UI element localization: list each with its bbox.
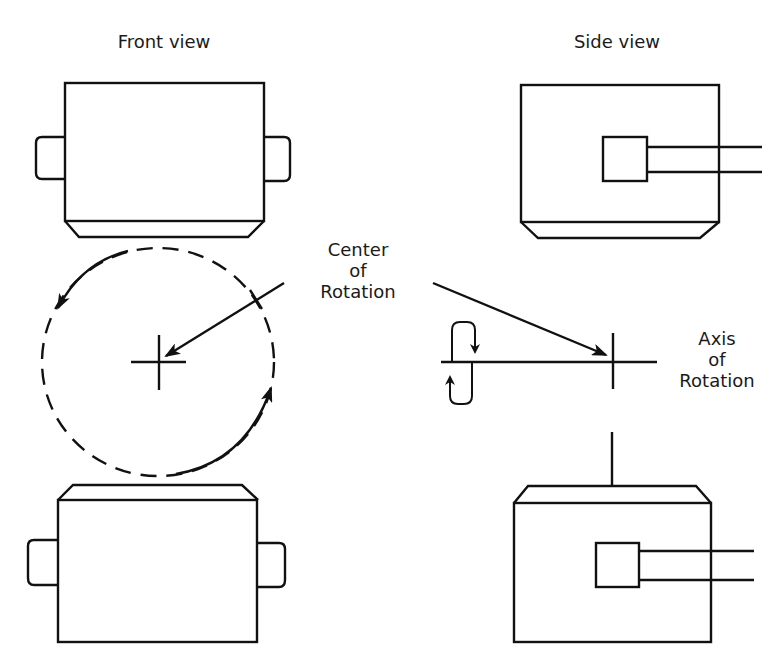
front-top-left-tab	[36, 137, 65, 179]
front-top-chamfer	[65, 221, 264, 237]
front-view-bottom-part	[28, 485, 285, 642]
axis-of-rotation-label: Axis of Rotation	[677, 328, 757, 391]
side-bottom-boss	[596, 543, 639, 587]
center-of-rotation-label: Center of Rotation	[318, 239, 398, 302]
side-top-boss	[603, 137, 647, 181]
curved-arrow-lower-right	[176, 388, 271, 474]
side-bottom-chamfer	[514, 486, 711, 503]
axis-leader-arrow	[433, 283, 606, 355]
center-label-line-2: of	[318, 260, 398, 281]
axis-rotation-arrow-lower	[450, 362, 472, 404]
front-top-right-tab	[264, 137, 290, 181]
front-view-top-part	[36, 83, 290, 237]
rotation-diagram	[0, 0, 784, 666]
side-top-chamfer	[521, 222, 719, 238]
front-bottom-chamfer	[58, 485, 258, 500]
curved-arrow-upper-left	[58, 251, 128, 308]
axis-label-line-2: of	[677, 349, 757, 370]
axis-rotation-arrow-upper	[452, 322, 475, 362]
side-view-label: Side view	[567, 31, 667, 52]
front-view-label: Front view	[114, 31, 214, 52]
front-bottom-left-tab	[28, 540, 58, 585]
rotation-circle-group	[42, 248, 284, 476]
front-top-body	[65, 83, 264, 221]
front-bottom-body	[58, 500, 257, 642]
side-top-body	[521, 85, 719, 222]
center-label-line-3: Rotation	[318, 281, 398, 302]
center-label-line-1: Center	[318, 239, 398, 260]
side-view-top-part	[521, 85, 762, 238]
axis-of-rotation-group	[433, 283, 657, 486]
front-bottom-right-tab	[257, 543, 285, 587]
side-view-bottom-part	[514, 486, 754, 642]
axis-label-line-1: Axis	[677, 328, 757, 349]
axis-label-line-3: Rotation	[677, 370, 757, 391]
side-bottom-body	[514, 503, 711, 642]
